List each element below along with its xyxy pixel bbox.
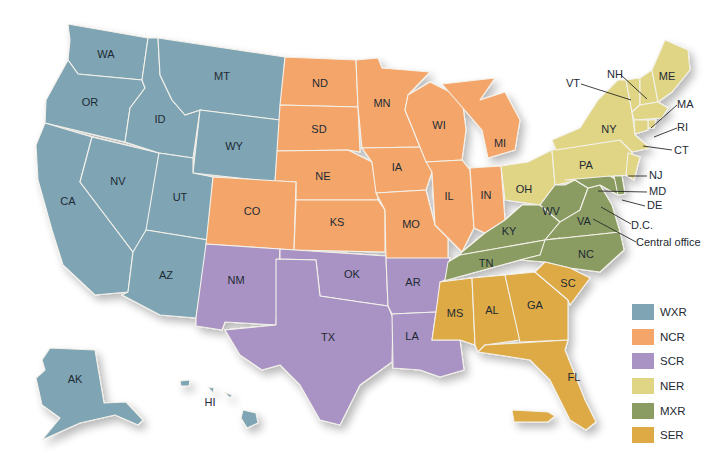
label-co: CO — [244, 205, 261, 217]
label-mn: MN — [373, 97, 390, 109]
callout-md: MD — [649, 185, 666, 197]
label-ar: AR — [405, 276, 420, 288]
label-ok: OK — [344, 268, 361, 280]
label-ga: GA — [527, 299, 544, 311]
legend-label-wxr: WXR — [660, 306, 687, 318]
legend-item-ser: SER — [632, 423, 687, 448]
label-sd: SD — [311, 123, 326, 135]
label-oh: OH — [516, 183, 533, 195]
label-ne: NE — [315, 170, 330, 182]
callout-ri: RI — [677, 121, 688, 133]
label-va: VA — [577, 215, 592, 227]
label-ca: CA — [60, 195, 76, 207]
label-hi: HI — [205, 396, 216, 408]
label-az: AZ — [159, 269, 173, 281]
state-ct[interactable] — [634, 120, 648, 134]
us-regions-map: WA OR CA NV ID MT WY UT AZ AK HI CO ND S… — [0, 0, 727, 463]
label-ut: UT — [173, 191, 188, 203]
label-wv: WV — [542, 205, 560, 217]
legend-swatch-scr — [632, 353, 654, 369]
label-ky: KY — [502, 225, 517, 237]
label-or: OR — [82, 96, 99, 108]
label-ia: IA — [392, 161, 403, 173]
callout-ma: MA — [677, 98, 694, 110]
callout-ct: CT — [674, 144, 689, 156]
legend-swatch-ner — [632, 378, 654, 394]
label-fl: FL — [568, 371, 581, 383]
state-nm[interactable] — [196, 244, 280, 330]
label-al: AL — [485, 304, 498, 316]
label-ny: NY — [601, 123, 617, 135]
callout-vt: VT — [566, 77, 580, 89]
label-pa: PA — [579, 159, 594, 171]
legend: WXR NCR SCR NER MXR SER — [632, 300, 687, 448]
label-wy: WY — [225, 140, 243, 152]
label-tn: TN — [479, 257, 494, 269]
label-ks: KS — [330, 216, 345, 228]
label-nv: NV — [110, 175, 126, 187]
puerto-rico[interactable] — [512, 410, 555, 422]
legend-swatch-ncr — [632, 329, 654, 345]
label-wa: WA — [97, 48, 115, 60]
legend-item-scr: SCR — [632, 349, 687, 374]
label-in: IN — [481, 189, 492, 201]
callout-de: DE — [647, 199, 662, 211]
legend-swatch-ser — [632, 427, 654, 443]
state-hi[interactable] — [180, 380, 258, 428]
legend-item-ner: NER — [632, 374, 687, 399]
callout-nj: NJ — [649, 169, 662, 181]
callout-dc: D.C. — [631, 219, 653, 231]
state-ak[interactable] — [36, 348, 143, 440]
label-sc: SC — [560, 277, 575, 289]
label-ms: MS — [447, 307, 464, 319]
label-il: IL — [444, 190, 453, 202]
legend-swatch-mxr — [632, 403, 654, 419]
label-me: ME — [659, 70, 676, 82]
legend-label-ncr: NCR — [660, 331, 685, 343]
callout-nh: NH — [607, 68, 623, 80]
legend-item-ncr: NCR — [632, 325, 687, 350]
legend-label-mxr: MXR — [660, 405, 686, 417]
label-ak: AK — [68, 373, 83, 385]
label-mt: MT — [214, 70, 230, 82]
label-la: LA — [405, 330, 419, 342]
label-id: ID — [155, 113, 166, 125]
legend-label-ser: SER — [660, 429, 684, 441]
label-nm: NM — [227, 274, 244, 286]
label-nd: ND — [312, 77, 328, 89]
legend-item-wxr: WXR — [632, 300, 687, 325]
label-nc: NC — [578, 248, 594, 260]
legend-item-mxr: MXR — [632, 398, 687, 423]
legend-swatch-wxr — [632, 304, 654, 320]
label-wi: WI — [432, 119, 445, 131]
callout-central-office: Central office — [636, 236, 701, 248]
label-tx: TX — [321, 331, 336, 343]
label-mi: MI — [494, 137, 506, 149]
label-mo: MO — [402, 218, 420, 230]
legend-label-ner: NER — [660, 380, 684, 392]
legend-label-scr: SCR — [660, 355, 684, 367]
